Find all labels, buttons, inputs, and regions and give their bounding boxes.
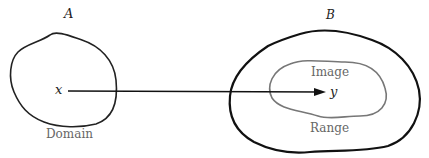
set-a-label: A <box>64 6 73 21</box>
element-x-label: x <box>55 82 62 97</box>
arrowhead-icon <box>314 88 326 96</box>
range-label: Range <box>310 121 349 135</box>
image-label: Image <box>311 65 349 79</box>
set-a-blob <box>11 33 117 127</box>
set-b-label: B <box>326 8 335 22</box>
domain-label: Domain <box>46 127 93 141</box>
element-y-label: y <box>330 84 337 99</box>
mapping-arrow <box>68 91 322 92</box>
